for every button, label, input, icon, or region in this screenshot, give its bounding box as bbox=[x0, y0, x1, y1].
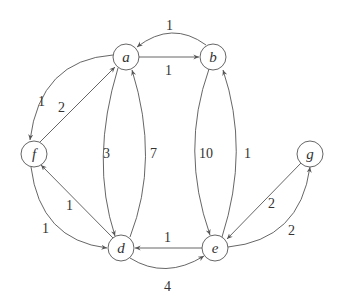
edge-d-a bbox=[130, 70, 146, 237]
weight-e-b: 1 bbox=[244, 146, 251, 161]
node-b: b bbox=[200, 44, 226, 70]
node-e-label: e bbox=[212, 240, 219, 256]
weight-a-b: 1 bbox=[165, 63, 172, 78]
weight-a-f: 1 bbox=[38, 94, 45, 109]
weight-a-d: 3 bbox=[103, 146, 110, 161]
weight-d-f: 1 bbox=[66, 198, 73, 213]
edge-d-e bbox=[130, 256, 204, 269]
edge-b-a bbox=[137, 33, 206, 47]
node-d: d bbox=[108, 235, 134, 261]
node-f: f bbox=[21, 141, 47, 167]
node-a: a bbox=[113, 44, 139, 70]
node-b-label: b bbox=[209, 49, 217, 65]
weight-d-e: 4 bbox=[164, 279, 171, 294]
edge-d-f bbox=[41, 165, 113, 238]
node-g: g bbox=[297, 141, 323, 167]
weight-g-e: 2 bbox=[268, 196, 275, 211]
weight-e-g: 2 bbox=[288, 223, 295, 238]
weight-b-a: 1 bbox=[166, 18, 173, 33]
edge-f-a bbox=[40, 67, 115, 142]
weight-e-d: 1 bbox=[164, 230, 171, 245]
weight-d-a: 7 bbox=[150, 146, 157, 161]
graph-canvas: 1 1 1 2 3 7 10 1 1 1 1 4 2 2 a b f bbox=[0, 0, 341, 303]
weight-f-d: 1 bbox=[42, 221, 49, 236]
node-a-label: a bbox=[122, 49, 130, 65]
graph-diagram: 1 1 1 2 3 7 10 1 1 1 1 4 2 2 a b f bbox=[0, 0, 341, 303]
node-e: e bbox=[202, 235, 228, 261]
node-g-label: g bbox=[306, 146, 314, 162]
weight-f-a: 2 bbox=[58, 100, 65, 115]
weight-b-e: 10 bbox=[199, 146, 213, 161]
edge-e-b bbox=[222, 70, 236, 237]
node-d-label: d bbox=[117, 240, 125, 256]
